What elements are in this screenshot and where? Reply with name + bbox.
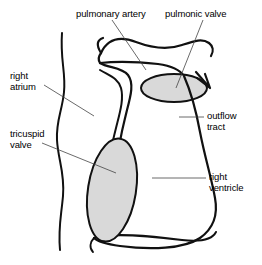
label-right-atrium-line2: atrium bbox=[10, 81, 36, 92]
pulmonary-artery-left-wall bbox=[99, 53, 101, 63]
ventricle-apex-notch bbox=[90, 238, 94, 252]
tricuspid-valve-ellipse bbox=[80, 135, 144, 245]
right-atrium-wall bbox=[57, 33, 65, 250]
label-outflow-tract-line1: outflow bbox=[207, 110, 236, 121]
label-right-ventricle-line2: ventricle bbox=[209, 182, 243, 193]
leader-right-atrium bbox=[44, 85, 94, 116]
pulmonary-artery-superior-border bbox=[101, 39, 213, 56]
label-right-atrium-line1: right bbox=[10, 70, 28, 81]
label-tricuspid-valve-line2: valve bbox=[10, 139, 32, 150]
label-right-ventricle-line1: right bbox=[209, 171, 227, 182]
label-tricuspid-valve-line1: tricuspid bbox=[10, 128, 44, 139]
label-pulmonic-valve: pulmonic valve bbox=[165, 8, 226, 19]
label-pulmonary-artery: pulmonary artery bbox=[76, 8, 146, 19]
anatomy-figure: pulmonary artery pulmonic valve right at… bbox=[0, 0, 262, 265]
label-outflow-tract-line2: tract bbox=[207, 121, 225, 132]
